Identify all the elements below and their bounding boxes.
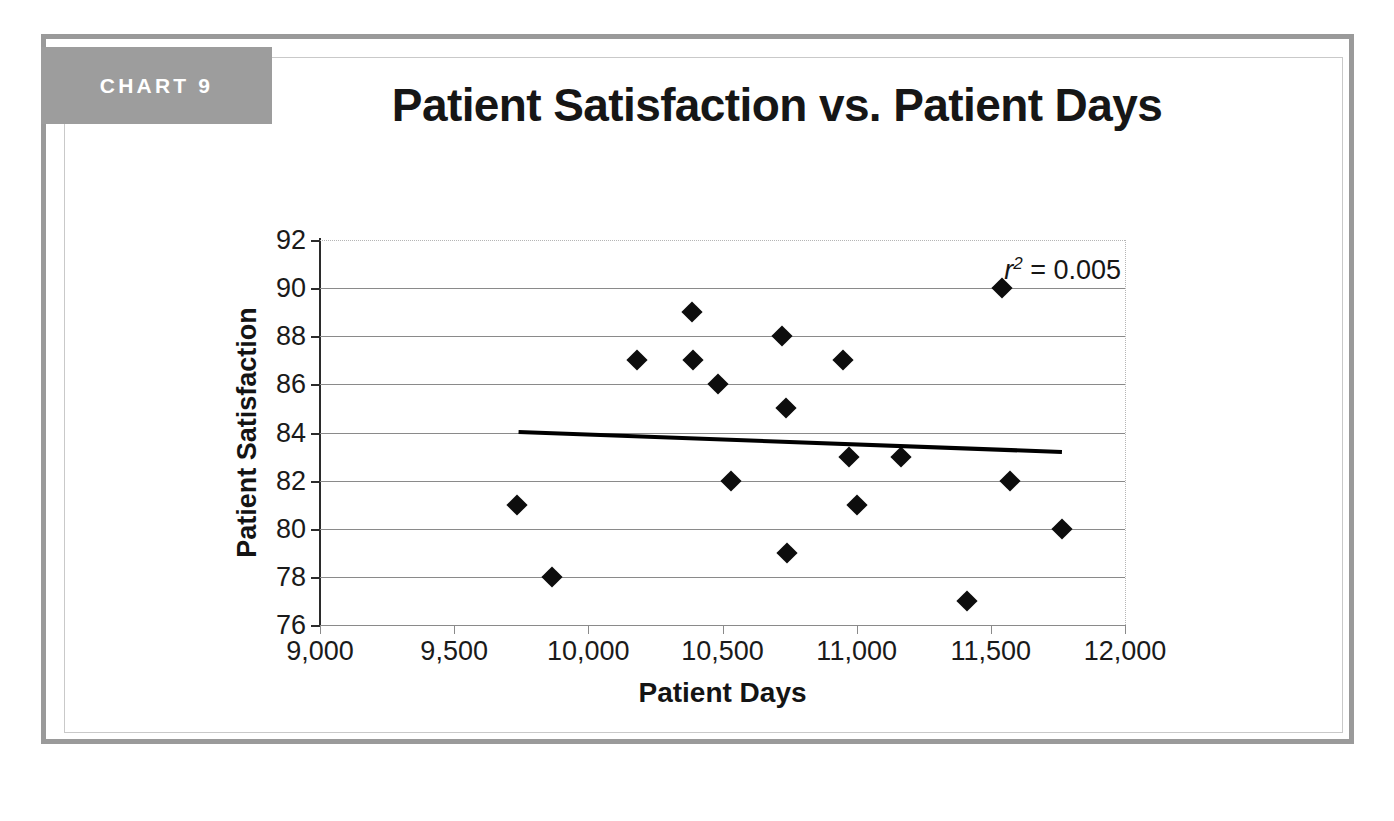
x-tick-10500 (723, 625, 724, 634)
x-tick-label-9500: 9,500 (420, 636, 488, 667)
y-tick-84 (311, 433, 320, 435)
y-tick-88 (311, 336, 320, 338)
linear-trendline (320, 240, 1125, 625)
y-tick-76 (311, 625, 320, 627)
y-tick-86 (311, 384, 320, 386)
x-tick-11500 (991, 625, 992, 634)
x-tick-12000 (1125, 625, 1126, 634)
y-tick-label-92: 92 (276, 225, 306, 256)
chart-number-badge: CHART 9 (41, 47, 272, 124)
y-tick-label-88: 88 (276, 321, 306, 352)
plot-area: 767880828486889092 9,0009,50010,00010,50… (320, 240, 1125, 625)
y-tick-78 (311, 577, 320, 579)
chart-number-label: CHART 9 (100, 74, 213, 98)
r-squared-value: = 0.005 (1023, 255, 1121, 285)
x-tick-9500 (454, 625, 455, 634)
y-tick-label-86: 86 (276, 369, 306, 400)
y-tick-80 (311, 529, 320, 531)
x-tick-label-12000: 12,000 (1084, 636, 1167, 667)
plot-right-edge (1125, 240, 1126, 625)
y-tick-label-80: 80 (276, 513, 306, 544)
chart-page: CHART 9 Patient Satisfaction vs. Patient… (0, 0, 1394, 821)
r-squared-symbol: r (1004, 255, 1013, 285)
y-tick-label-90: 90 (276, 273, 306, 304)
r-squared-annotation: r2 = 0.005 (1004, 254, 1121, 286)
x-axis-title: Patient Days (320, 677, 1125, 709)
x-tick-9000 (320, 625, 321, 634)
x-tick-label-10500: 10,500 (681, 636, 764, 667)
x-tick-label-11000: 11,000 (816, 636, 897, 667)
x-tick-11000 (857, 625, 858, 634)
x-tick-label-11500: 11,500 (951, 636, 1032, 667)
trendline-segment (519, 432, 1062, 452)
y-axis-title: Patient Satisfaction (232, 240, 266, 625)
y-tick-92 (311, 240, 320, 242)
x-tick-10000 (588, 625, 589, 634)
y-tick-label-84: 84 (276, 417, 306, 448)
x-tick-label-10000: 10,000 (547, 636, 630, 667)
r-squared-exponent: 2 (1013, 254, 1022, 273)
y-tick-label-82: 82 (276, 465, 306, 496)
y-tick-82 (311, 481, 320, 483)
y-tick-90 (311, 288, 320, 290)
y-tick-label-78: 78 (276, 561, 306, 592)
x-tick-label-9000: 9,000 (286, 636, 354, 667)
